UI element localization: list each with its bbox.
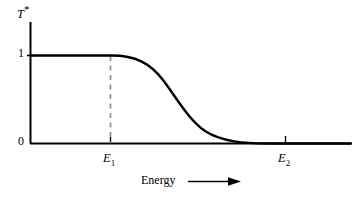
figure-container: T* 1 0 E1 E2 Energy bbox=[0, 0, 363, 199]
x-tick-label-e1-base: E bbox=[103, 151, 111, 165]
transmission-curve bbox=[31, 56, 351, 144]
plot-area bbox=[0, 0, 363, 199]
y-tick-label-1: 1 bbox=[18, 47, 24, 59]
x-axis-title: Energy bbox=[141, 174, 175, 186]
y-axis-title-base: T bbox=[17, 7, 24, 21]
y-axis-title-superscript: * bbox=[24, 3, 30, 15]
x-axis-arrow-icon bbox=[188, 174, 244, 188]
y-axis-title: T* bbox=[17, 8, 29, 21]
x-tick-label-e2-base: E bbox=[278, 151, 286, 165]
x-tick-label-e1-subscript: 1 bbox=[111, 158, 116, 168]
x-tick-label-e2-subscript: 2 bbox=[286, 158, 291, 168]
x-tick-label-e1: E1 bbox=[103, 152, 115, 165]
x-tick-label-e2: E2 bbox=[278, 152, 290, 165]
y-tick-label-0: 0 bbox=[18, 135, 24, 147]
